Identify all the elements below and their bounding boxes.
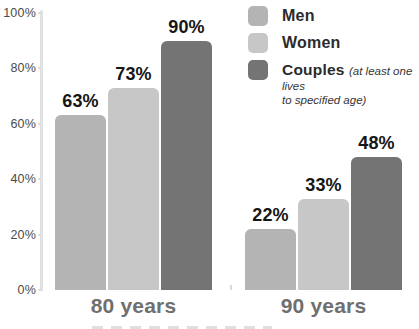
legend: Men Women Couples (at least one lives to… (248, 6, 419, 107)
legend-text-couples: Couples (at least one lives to specified… (282, 60, 419, 107)
y-tick-label-60: 60% (0, 117, 36, 131)
y-tick-label-80: 80% (0, 61, 36, 75)
bar-men-80-years: 63% (55, 115, 106, 290)
y-tick-label-100: 100% (0, 6, 36, 20)
legend-swatch-couples (248, 60, 268, 80)
legend-swatch-men (248, 6, 268, 26)
y-tick-label-40: 40% (0, 172, 36, 186)
legend-label-women: Women (282, 33, 340, 53)
bar-value-label: 63% (62, 91, 99, 112)
bar-women-80-years: 73% (108, 88, 159, 290)
y-tick-label-20: 20% (0, 228, 36, 242)
category-label-80-years: 80 years (55, 294, 212, 318)
bar-value-label: 90% (168, 17, 205, 38)
y-axis-tick-labels: 100% 80% 60% 40% 20% 0% (0, 0, 36, 329)
legend-item-men: Men (248, 6, 419, 26)
bar-chart: 100% 80% 60% 40% 20% 0% 63% 73% 90% 22% … (0, 0, 419, 329)
legend-swatch-women (248, 33, 268, 53)
legend-item-women: Women (248, 33, 419, 53)
bar-couples-90-years: 48% (351, 157, 402, 290)
y-tick-label-0: 0% (0, 283, 36, 297)
category-label-90-years: 90 years (245, 294, 402, 318)
bar-couples-80-years: 90% (161, 41, 212, 290)
y-axis-line (40, 10, 43, 291)
bar-value-label: 73% (115, 64, 152, 85)
legend-label-couples: Couples (282, 61, 345, 78)
x-axis-tick (230, 285, 232, 290)
legend-item-couples: Couples (at least one lives to specified… (248, 60, 419, 107)
bar-value-label: 48% (358, 133, 395, 154)
bar-value-label: 33% (305, 175, 342, 196)
bar-men-90-years: 22% (245, 229, 296, 290)
legend-label-men: Men (282, 6, 315, 26)
bar-value-label: 22% (252, 205, 289, 226)
legend-note-line2: to specified age) (282, 94, 419, 107)
bar-women-90-years: 33% (298, 199, 349, 290)
